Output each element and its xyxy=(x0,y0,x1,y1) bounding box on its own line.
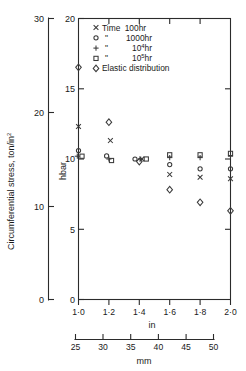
data-point xyxy=(106,119,112,126)
x-tick-2-0: 2·0 xyxy=(224,307,237,317)
data-point xyxy=(80,154,84,158)
legend-unit-3: hr xyxy=(145,53,153,63)
inner-y-axis: 20 15 10 5 0 hbar xyxy=(58,14,84,305)
diamond-icon xyxy=(93,65,99,72)
data-point xyxy=(138,156,143,161)
outer-y-axis: 30 20 10 0 Circumferential stress, ton/i… xyxy=(6,14,55,305)
legend-item-time-10e5hr: " 105hr xyxy=(94,53,152,64)
svg-text:Circumferential stress, ton/in: Circumferential stress, ton/in2 xyxy=(6,133,17,250)
circle-icon xyxy=(94,36,98,40)
series-time-10e5hr xyxy=(80,151,233,162)
legend-item-time-1000hr: " 1000hr xyxy=(94,33,152,43)
inner-y-tick-5: 5 xyxy=(70,225,75,235)
legend-item-elastic-distribution: Elastic distribution xyxy=(93,63,170,73)
legend-label-4: Elastic distribution xyxy=(102,63,170,73)
figure-container: 30 20 10 0 Circumferential stress, ton/i… xyxy=(0,0,246,371)
x-tick-1-6: 1·6 xyxy=(163,307,176,317)
square-icon xyxy=(94,56,98,60)
data-point xyxy=(198,175,203,180)
outer-y-axis-title-sup: 2 xyxy=(6,133,12,136)
x-tick-1-4: 1·4 xyxy=(133,307,146,317)
legend: Time 100hr " 1000hr " 104hr " xyxy=(93,23,170,74)
data-point xyxy=(144,157,148,161)
x-axis-mm: 25 30 35 40 45 50 mm xyxy=(71,334,219,366)
data-point xyxy=(167,186,173,193)
data-point xyxy=(75,154,80,159)
legend-label-3: " xyxy=(105,53,108,63)
mm-tick-50: 50 xyxy=(209,342,219,352)
data-point xyxy=(168,163,172,167)
x-tick-1-8: 1·8 xyxy=(194,307,207,317)
legend-value-1: 1000 xyxy=(126,33,145,43)
x-tick-1-0: 1·0 xyxy=(72,307,85,317)
outer-y-tick-10: 10 xyxy=(34,202,44,212)
svg-text:105hr: 105hr xyxy=(132,53,152,64)
data-point xyxy=(167,172,172,177)
outer-y-axis-title-text: Circumferential stress, ton/in xyxy=(6,136,16,250)
inner-y-tick-0: 0 xyxy=(70,295,75,305)
plot-frame xyxy=(79,19,231,300)
cross-icon xyxy=(94,25,99,30)
mm-tick-30: 30 xyxy=(98,342,108,352)
series-elastic-distribution xyxy=(76,64,234,214)
legend-value-0: 100 xyxy=(125,23,139,33)
legend-label-2: " xyxy=(105,43,108,53)
inner-y-tick-15: 15 xyxy=(65,84,75,94)
plus-icon xyxy=(93,46,98,51)
data-point xyxy=(105,154,109,158)
legend-item-time-10e4hr: " 104hr xyxy=(93,43,152,54)
scatter-chart: 30 20 10 0 Circumferential stress, ton/i… xyxy=(0,0,246,371)
outer-y-tick-0: 0 xyxy=(39,295,44,305)
mm-tick-35: 35 xyxy=(126,342,136,352)
inner-y-tick-20: 20 xyxy=(65,14,75,24)
svg-text:1000hr: 1000hr xyxy=(126,33,152,43)
x-axis-title-mm: mm xyxy=(137,356,152,366)
series-time-1000hr xyxy=(76,149,232,171)
outer-y-tick-30: 30 xyxy=(34,14,44,24)
mm-tick-45: 45 xyxy=(181,342,191,352)
data-point xyxy=(133,157,137,161)
mm-tick-40: 40 xyxy=(154,342,164,352)
legend-value-2: 10 xyxy=(132,43,142,53)
data-point xyxy=(197,199,203,206)
inner-y-axis-title: hbar xyxy=(58,162,68,180)
data-points xyxy=(75,64,234,214)
legend-unit-2: hr xyxy=(145,43,153,53)
outer-y-axis-title: Circumferential stress, ton/in2 xyxy=(6,133,17,250)
data-point xyxy=(108,138,113,143)
x-tick-1-2: 1·2 xyxy=(103,307,116,317)
data-point xyxy=(198,167,202,171)
inner-y-axis-title-text: hbar xyxy=(58,162,68,180)
x-axis-title-in: in xyxy=(148,320,155,330)
svg-text:Time 100hr: Time 100hr xyxy=(102,23,146,33)
series-time-100hr xyxy=(76,124,233,181)
legend-unit-0: hr xyxy=(139,23,147,33)
legend-item-time-100hr: Time 100hr xyxy=(94,23,147,33)
legend-label-1: " xyxy=(105,33,108,43)
legend-unit-1: hr xyxy=(145,33,153,43)
outer-y-tick-20: 20 xyxy=(34,108,44,118)
x-axis-in: 1·0 1·2 1·4 1·6 1·8 2·0 in xyxy=(72,300,237,331)
mm-tick-25: 25 xyxy=(71,342,81,352)
legend-value-3: 10 xyxy=(132,53,142,63)
legend-label-0: Time xyxy=(102,23,121,33)
svg-text:104hr: 104hr xyxy=(132,43,152,54)
series-time-10e4hr xyxy=(75,154,233,162)
